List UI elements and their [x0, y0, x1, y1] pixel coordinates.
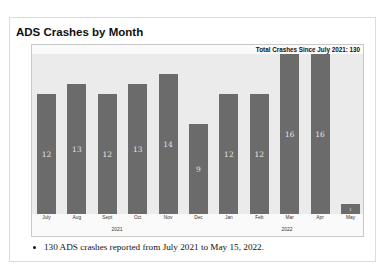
- bar-value-label: 13: [133, 145, 143, 154]
- year-label-2022: 2022: [267, 226, 307, 232]
- bar-sept: 12: [98, 94, 117, 214]
- x-axis-label: July: [31, 215, 62, 220]
- chart-title: ADS Crashes by Month: [16, 26, 143, 38]
- bar-value-label: 12: [224, 150, 234, 159]
- bar-july: 12: [37, 94, 56, 214]
- x-axis-label: Feb: [244, 215, 275, 220]
- bar-value-label: 16: [285, 130, 295, 139]
- bar-value-label: 16: [315, 130, 325, 139]
- bar-aug: 13: [67, 84, 86, 214]
- year-label-2021: 2021: [97, 226, 137, 232]
- x-axis-label: Dec: [183, 215, 214, 220]
- bar-apr: 16: [311, 54, 330, 214]
- bar-oct: 13: [128, 84, 147, 214]
- x-axis-label: Aug: [61, 215, 92, 220]
- bar-nov: 14: [159, 74, 178, 214]
- bar-mar: 16: [280, 54, 299, 214]
- x-axis-label: Apr: [305, 215, 336, 220]
- bar-jan: 12: [219, 94, 238, 214]
- bar-value-label: 13: [72, 145, 82, 154]
- bar-value-label: 9: [196, 165, 201, 174]
- bar-value-label: 12: [255, 150, 265, 159]
- x-axis-label: Oct: [122, 215, 153, 220]
- bar-value-label: 14: [163, 140, 173, 149]
- bar-feb: 12: [250, 94, 269, 214]
- x-axis-label: Mar: [274, 215, 305, 220]
- bar-value-label: 12: [103, 150, 113, 159]
- bullet-icon: [33, 246, 36, 249]
- x-axis-label: May: [335, 215, 366, 220]
- bar-dec: 9: [189, 124, 208, 214]
- summary-text: 130 ADS crashes reported from July 2021 …: [44, 242, 264, 252]
- x-axis-label: Jan: [213, 215, 244, 220]
- summary-bullet: 130 ADS crashes reported from July 2021 …: [32, 242, 264, 252]
- bar-value-label: 12: [42, 150, 52, 159]
- bar-may: 1: [341, 204, 360, 214]
- total-crashes-annotation: Total Crashes Since July 2021: 130: [256, 46, 360, 53]
- x-axis-label: Nov: [153, 215, 184, 220]
- x-axis-label: Sept: [92, 215, 123, 220]
- bar-value-label: 1: [349, 207, 352, 212]
